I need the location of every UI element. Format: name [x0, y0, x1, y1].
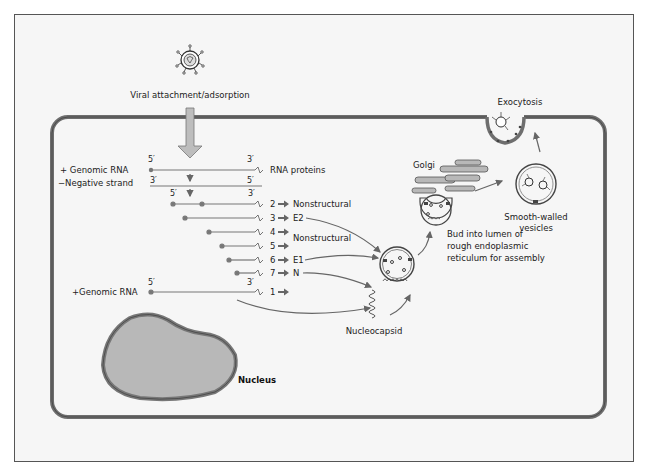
smooth-vesicle-icon — [516, 164, 556, 204]
transcript-numbers: 2 3 4 5 6 7 1 — [270, 199, 275, 297]
three-prime-label: 3′ — [150, 176, 157, 185]
er-vesicle-icon — [380, 247, 414, 281]
product-e2-label: E2 — [293, 213, 304, 223]
rna-proteins-label: RNA proteins — [270, 165, 326, 175]
transcripts — [149, 202, 255, 294]
product-nonstructural-label: Nonstructural — [293, 199, 351, 209]
svg-text:1: 1 — [270, 287, 275, 297]
replication-diagram: Viral attachment/adsorption + Genomic RN… — [0, 0, 650, 476]
exocytosis-label: Exocytosis — [498, 97, 543, 107]
five-prime-label: 5′ — [148, 278, 155, 287]
bud-label-line2: rough endoplasmic — [447, 241, 529, 251]
five-prime-label: 5′ — [247, 176, 254, 185]
virus-icon — [176, 45, 204, 74]
svg-text:6: 6 — [270, 255, 275, 265]
svg-text:7: 7 — [270, 268, 275, 278]
budding-vesicle-icon — [420, 195, 452, 225]
smooth-walled-label-line1: Smooth-walled — [504, 212, 567, 222]
bud-label-line1: Bud into lumen of — [447, 229, 524, 239]
nucleus-label: Nucleus — [238, 375, 276, 385]
five-prime-label: 5′ — [148, 155, 155, 164]
bud-label-line3: reticulum for assembly — [447, 253, 545, 263]
attachment-label: Viral attachment/adsorption — [130, 90, 249, 100]
negative-strand-label: −Negative strand — [58, 178, 133, 188]
product-nonstructural-45-label: Nonstructural — [293, 233, 351, 243]
three-prime-label: 3′ — [248, 189, 255, 198]
svg-text:3: 3 — [270, 213, 275, 223]
transcript-arrow-icons — [278, 201, 289, 296]
flow-arrows — [237, 133, 540, 315]
smooth-walled-label-line2: vesicles — [519, 223, 553, 233]
svg-text:2: 2 — [270, 199, 275, 209]
five-prime-label: 5′ — [170, 189, 177, 198]
golgi-label: Golgi — [413, 160, 435, 170]
nucleocapsid-label: Nucleocapsid — [346, 326, 403, 336]
product-n-label: N — [293, 268, 299, 278]
three-prime-label: 3′ — [247, 155, 254, 164]
genomic-rna-top-label: + Genomic RNA — [60, 165, 129, 175]
svg-text:4: 4 — [270, 227, 275, 237]
product-e1-label: E1 — [293, 255, 304, 265]
nucleus — [103, 314, 236, 399]
genomic-rna-bottom-label: +Genomic RNA — [72, 287, 138, 297]
nucleocapsid-icon — [369, 290, 375, 318]
three-prime-label: 3′ — [247, 278, 254, 287]
svg-text:5: 5 — [270, 241, 275, 251]
